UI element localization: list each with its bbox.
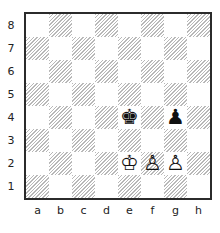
square-d6[interactable] <box>95 60 118 83</box>
square-a8[interactable] <box>26 14 49 37</box>
file-label-g: g <box>164 203 187 219</box>
square-h8[interactable] <box>187 14 210 37</box>
file-labels: abcdefgh <box>26 203 210 219</box>
square-c3[interactable] <box>72 129 95 152</box>
square-c5[interactable] <box>72 83 95 106</box>
rank-label-2: 2 <box>2 152 20 175</box>
square-h1[interactable] <box>187 175 210 198</box>
square-f4[interactable] <box>141 106 164 129</box>
rank-label-1: 1 <box>2 175 20 198</box>
square-d5[interactable] <box>95 83 118 106</box>
square-e6[interactable] <box>118 60 141 83</box>
square-f6[interactable] <box>141 60 164 83</box>
rank-label-4: 4 <box>2 106 20 129</box>
square-e3[interactable] <box>118 129 141 152</box>
square-b6[interactable] <box>49 60 72 83</box>
square-b3[interactable] <box>49 129 72 152</box>
chess-diagram: 87654321 ♚♟♔♙♙ abcdefgh <box>0 0 220 233</box>
rank-label-8: 8 <box>2 14 20 37</box>
rank-label-5: 5 <box>2 83 20 106</box>
square-g6[interactable] <box>164 60 187 83</box>
square-f7[interactable] <box>141 37 164 60</box>
square-b8[interactable] <box>49 14 72 37</box>
square-g7[interactable] <box>164 37 187 60</box>
square-g8[interactable] <box>164 14 187 37</box>
rank-label-7: 7 <box>2 37 20 60</box>
square-e8[interactable] <box>118 14 141 37</box>
square-b4[interactable] <box>49 106 72 129</box>
rank-labels: 87654321 <box>2 14 20 198</box>
black-king[interactable]: ♚ <box>120 106 139 129</box>
square-f3[interactable] <box>141 129 164 152</box>
square-c2[interactable] <box>72 152 95 175</box>
square-a6[interactable] <box>26 60 49 83</box>
file-label-h: h <box>187 203 210 219</box>
square-c8[interactable] <box>72 14 95 37</box>
square-e2[interactable]: ♔ <box>118 152 141 175</box>
file-label-c: c <box>72 203 95 219</box>
file-label-e: e <box>118 203 141 219</box>
white-pawn[interactable]: ♙ <box>143 152 162 175</box>
square-f2[interactable]: ♙ <box>141 152 164 175</box>
square-h6[interactable] <box>187 60 210 83</box>
square-h3[interactable] <box>187 129 210 152</box>
square-b2[interactable] <box>49 152 72 175</box>
square-c1[interactable] <box>72 175 95 198</box>
white-pawn[interactable]: ♙ <box>166 152 185 175</box>
square-a3[interactable] <box>26 129 49 152</box>
square-g1[interactable] <box>164 175 187 198</box>
square-a4[interactable] <box>26 106 49 129</box>
square-b5[interactable] <box>49 83 72 106</box>
square-d2[interactable] <box>95 152 118 175</box>
file-label-a: a <box>26 203 49 219</box>
square-h5[interactable] <box>187 83 210 106</box>
square-f5[interactable] <box>141 83 164 106</box>
square-g3[interactable] <box>164 129 187 152</box>
square-e4[interactable]: ♚ <box>118 106 141 129</box>
square-d8[interactable] <box>95 14 118 37</box>
square-d7[interactable] <box>95 37 118 60</box>
square-d1[interactable] <box>95 175 118 198</box>
square-h4[interactable] <box>187 106 210 129</box>
square-a2[interactable] <box>26 152 49 175</box>
square-c7[interactable] <box>72 37 95 60</box>
chess-board: ♚♟♔♙♙ <box>24 12 212 200</box>
square-f8[interactable] <box>141 14 164 37</box>
file-label-d: d <box>95 203 118 219</box>
square-c6[interactable] <box>72 60 95 83</box>
square-c4[interactable] <box>72 106 95 129</box>
white-king[interactable]: ♔ <box>120 152 139 175</box>
square-b1[interactable] <box>49 175 72 198</box>
square-b7[interactable] <box>49 37 72 60</box>
square-g5[interactable] <box>164 83 187 106</box>
black-pawn[interactable]: ♟ <box>166 106 185 129</box>
square-e7[interactable] <box>118 37 141 60</box>
file-label-f: f <box>141 203 164 219</box>
file-label-b: b <box>49 203 72 219</box>
square-h7[interactable] <box>187 37 210 60</box>
square-d3[interactable] <box>95 129 118 152</box>
square-f1[interactable] <box>141 175 164 198</box>
square-e5[interactable] <box>118 83 141 106</box>
square-a1[interactable] <box>26 175 49 198</box>
rank-label-3: 3 <box>2 129 20 152</box>
square-e1[interactable] <box>118 175 141 198</box>
square-g4[interactable]: ♟ <box>164 106 187 129</box>
square-h2[interactable] <box>187 152 210 175</box>
square-a7[interactable] <box>26 37 49 60</box>
square-d4[interactable] <box>95 106 118 129</box>
rank-label-6: 6 <box>2 60 20 83</box>
square-g2[interactable]: ♙ <box>164 152 187 175</box>
square-a5[interactable] <box>26 83 49 106</box>
